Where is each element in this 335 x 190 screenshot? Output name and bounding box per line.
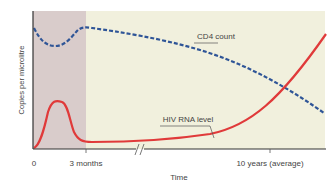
hiv-rna-annotation: HIV RNA level (163, 115, 214, 124)
x-axis-label: Time (170, 173, 188, 182)
tick-label-10-years: 10 years (average) (236, 159, 303, 168)
tick-label-3-months: 3 months (70, 159, 103, 168)
hiv-progression-chart: 0 3 months 10 years (average) Time Copie… (0, 0, 335, 190)
tick-label-0: 0 (32, 159, 37, 168)
cd4-count-annotation: CD4 count (197, 32, 236, 41)
acute-phase-shading (33, 11, 86, 149)
y-axis-label: Copies per microlitre (17, 46, 26, 115)
